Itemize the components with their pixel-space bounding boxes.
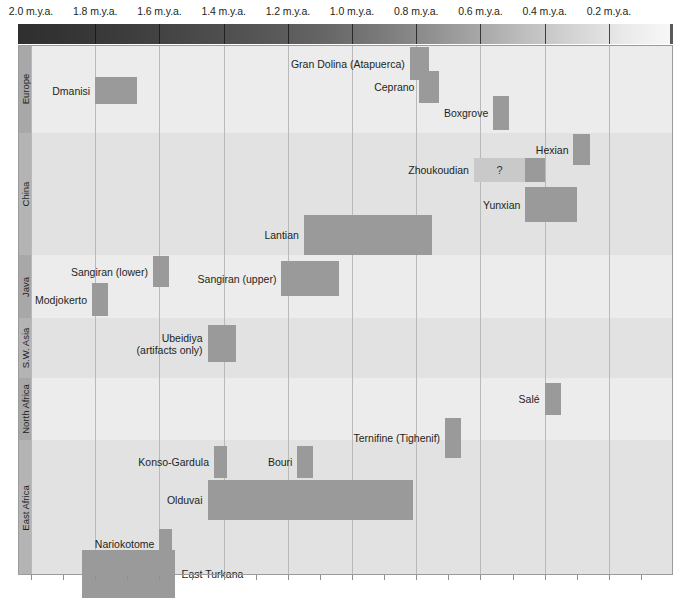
site-bar-zhoukoudian	[525, 158, 544, 182]
gridline	[159, 45, 160, 575]
gridline	[416, 45, 417, 575]
site-label-lantian: Lantian	[264, 229, 298, 241]
site-bar-boxgrove	[493, 96, 509, 130]
bottom-tick-minor	[256, 575, 257, 580]
site-label-ubeidiya: Ubeidiya(artifacts only)	[137, 332, 203, 356]
site-label-konso-gardula: Konso-Gardula	[138, 456, 209, 468]
site-bar-olduvai	[208, 480, 413, 520]
bottom-tick	[416, 575, 417, 580]
bottom-tick	[159, 575, 160, 580]
site-label-yunxian: Yunxian	[483, 199, 520, 211]
site-bar-modjokerto	[92, 283, 108, 316]
axis-tick-0-2: 0.2 m.y.a.	[587, 5, 631, 17]
site-label-line-1: Ubeidiya	[137, 332, 203, 344]
site-bar-ubeidiya	[208, 325, 237, 362]
gradient-tick	[352, 24, 353, 44]
site-bar-konso-gardula	[214, 446, 227, 478]
gradient-tick	[609, 24, 610, 44]
region-column-s-w-asia: S.W. Asia	[18, 318, 31, 378]
bottom-tick	[31, 575, 32, 580]
site-label-boxgrove: Boxgrove	[444, 107, 488, 119]
region-column-north-africa: North Africa	[18, 378, 31, 440]
gradient-tick	[159, 24, 160, 44]
bottom-tick	[95, 575, 96, 580]
gradient-tick	[416, 24, 417, 44]
time-gradient-end-cap	[670, 24, 673, 44]
site-label-sangiran-upper: Sangiran (upper)	[198, 273, 277, 285]
site-bar-bouri	[297, 446, 313, 478]
bottom-tick	[480, 575, 481, 580]
gridline	[545, 45, 546, 575]
bottom-tick	[288, 575, 289, 580]
site-label-dmanisi: Dmanisi	[52, 85, 90, 97]
site-label-sangiran-lower: Sangiran (lower)	[71, 266, 148, 278]
axis-tick-1-8: 1.8 m.y.a.	[73, 5, 117, 17]
uncertainty-question-mark: ?	[497, 164, 503, 176]
bottom-tick-minor	[320, 575, 321, 580]
gradient-tick	[95, 24, 96, 44]
gradient-tick	[480, 24, 481, 44]
time-gradient-bar	[18, 24, 670, 44]
bottom-tick-minor	[192, 575, 193, 580]
site-bar-sangiran-lower	[153, 256, 169, 287]
site-label-sal: Salé	[519, 393, 540, 405]
axis-tick-2: 2.0 m.y.a.	[9, 5, 53, 17]
gradient-tick	[224, 24, 225, 44]
site-bar-sangiran-upper	[281, 261, 339, 296]
site-label-gran-dolina-atapuerca: Gran Dolina (Atapuerca)	[291, 58, 405, 70]
site-label-zhoukoudian: Zhoukoudian	[408, 164, 469, 176]
site-label-hexian: Hexian	[536, 144, 569, 156]
region-column-europe: Europe	[18, 45, 31, 133]
axis-tick-0-4: 0.4 m.y.a.	[522, 5, 566, 17]
site-bar-lantian	[304, 215, 432, 255]
axis-tick-1: 1.0 m.y.a.	[330, 5, 374, 17]
axis-tick-1-4: 1.4 m.y.a.	[201, 5, 245, 17]
plot-area: EuropeChinaJavaS.W. AsiaNorth AfricaEast…	[18, 45, 673, 575]
site-label-ternifine-tighenif: Ternifine (Tighenif)	[354, 432, 441, 444]
bottom-tick	[609, 575, 610, 580]
region-label-s-w-asia: S.W. Asia	[19, 328, 30, 369]
gridline	[480, 45, 481, 575]
gridline	[31, 45, 32, 575]
axis-tick-0-8: 0.8 m.y.a.	[394, 5, 438, 17]
bottom-tick	[352, 575, 353, 580]
site-bar-dmanisi	[95, 77, 137, 104]
region-label-east-africa: East Africa	[19, 485, 30, 530]
gradient-tick	[545, 24, 546, 44]
gridline	[609, 45, 610, 575]
region-column-china: China	[18, 133, 31, 255]
bottom-tick-minor	[448, 575, 449, 580]
site-label-nariokotome: Nariokotome	[95, 538, 155, 550]
site-bar-sal	[545, 383, 561, 415]
site-label-bouri: Bouri	[268, 456, 293, 468]
region-label-europe: Europe	[19, 74, 30, 105]
bottom-tick	[545, 575, 546, 580]
site-bar-ceprano	[419, 71, 438, 103]
bottom-tick-minor	[63, 575, 64, 580]
site-label-line-2: (artifacts only)	[137, 344, 203, 356]
site-label-ceprano: Ceprano	[374, 81, 414, 93]
region-label-java: Java	[19, 276, 30, 296]
bottom-tick-minor	[641, 575, 642, 580]
region-label-north-africa: North Africa	[19, 384, 30, 434]
bottom-tick-minor	[127, 575, 128, 580]
site-bar-ternifine-tighenif	[445, 418, 461, 458]
axis-tick-1-6: 1.6 m.y.a.	[137, 5, 181, 17]
region-column-java: Java	[18, 255, 31, 318]
site-bar-yunxian	[525, 187, 576, 222]
site-bar-east-turkana	[82, 550, 175, 598]
region-label-china: China	[19, 182, 30, 207]
axis-tick-0-6: 0.6 m.y.a.	[458, 5, 502, 17]
site-label-modjokerto: Modjokerto	[35, 294, 87, 306]
gradient-tick	[288, 24, 289, 44]
site-label-olduvai: Olduvai	[167, 494, 203, 506]
bottom-tick-minor	[513, 575, 514, 580]
bottom-tick-minor	[384, 575, 385, 580]
site-bar-hexian	[573, 134, 589, 165]
axis-tick-1-2: 1.2 m.y.a.	[266, 5, 310, 17]
bottom-tick-minor	[577, 575, 578, 580]
bottom-tick	[224, 575, 225, 580]
region-column-east-africa: East Africa	[18, 440, 31, 575]
